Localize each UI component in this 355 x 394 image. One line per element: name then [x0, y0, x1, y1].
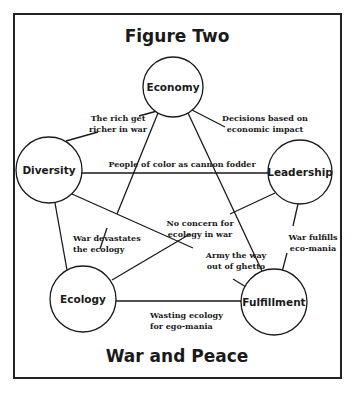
- relationship-diagram: Figure Two War and Peace The rich getric…: [0, 0, 355, 394]
- edge-economy-fulfillment: [188, 113, 262, 271]
- edge-label-leadership-fulfillment: War fulfillseco-mania: [287, 232, 338, 253]
- edge-diversity-ecology: [55, 203, 67, 270]
- edge-diversity-fulfillment: [233, 279, 246, 287]
- edge-label-leadership-ecology: No concern forecology in war: [166, 218, 234, 239]
- node-economy: Economy: [143, 57, 203, 117]
- node-label-leadership: Leadership: [267, 166, 333, 178]
- node-diversity: Diversity: [16, 137, 82, 203]
- edge-label-economy-leadership: Decisions based oneconomic impact: [222, 113, 308, 134]
- node-label-ecology: Ecology: [60, 293, 106, 305]
- node-label-diversity: Diversity: [22, 164, 75, 176]
- edge-economy-leadership: [192, 110, 225, 127]
- edge-label-diversity-leadership: People of color as cannon fodder: [108, 159, 256, 169]
- node-leadership: Leadership: [267, 140, 333, 204]
- node-label-economy: Economy: [146, 81, 199, 93]
- edge-label-economy-ecology: War devastatesthe ecology: [72, 233, 141, 254]
- edge-label-economy-diversity: The rich getricher in war: [89, 113, 148, 134]
- edge-leadership-ecology: [230, 193, 275, 214]
- node-fulfillment: Fulfillment: [241, 269, 307, 335]
- node-ecology: Ecology: [50, 266, 116, 332]
- figure-title: Figure Two: [125, 26, 230, 46]
- edge-leadership-fulfillment: [293, 204, 298, 226]
- edge-label-ecology-fulfillment: Wasting ecologyfor ego-mania: [149, 310, 223, 331]
- edge-label-diversity-fulfillment: Army the wayout of ghetto: [205, 250, 267, 271]
- figure-subtitle: War and Peace: [106, 346, 249, 366]
- edge-leadership-fulfillment: [282, 253, 287, 272]
- node-label-fulfillment: Fulfillment: [242, 296, 305, 308]
